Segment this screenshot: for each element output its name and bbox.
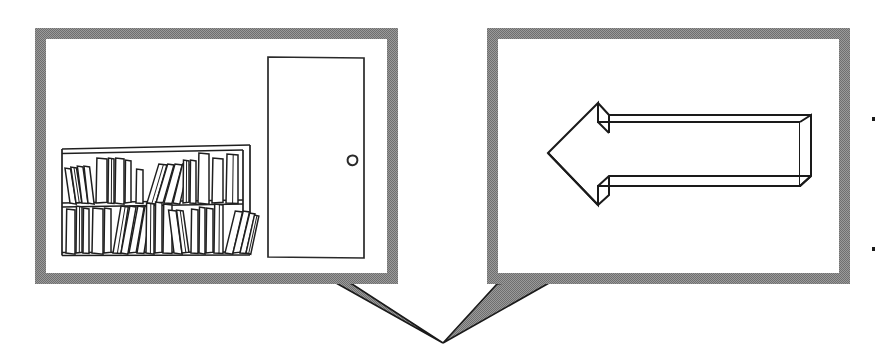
book	[104, 208, 111, 253]
book	[83, 208, 89, 253]
panel-right-tail	[443, 274, 565, 343]
book	[115, 158, 124, 204]
book	[226, 154, 238, 203]
book	[92, 208, 103, 254]
book	[206, 208, 213, 253]
book	[66, 209, 75, 254]
illustration-canvas: room-with-bookshelf-and-door left-pointi…	[0, 0, 878, 346]
book	[212, 158, 223, 203]
book	[190, 160, 196, 203]
panel-left-tail	[320, 274, 443, 343]
edge-speck-top	[872, 117, 875, 121]
panel-left	[35, 28, 443, 343]
book	[125, 160, 131, 203]
edge-marks	[872, 117, 875, 251]
door	[268, 57, 364, 258]
edge-speck-bottom	[872, 247, 875, 251]
book	[96, 158, 107, 203]
book	[155, 202, 162, 253]
book-spine-line	[233, 155, 234, 203]
book	[191, 209, 198, 253]
book	[198, 153, 209, 204]
book	[136, 169, 143, 203]
panel-right	[443, 28, 850, 343]
comic-illustration	[0, 0, 878, 346]
book	[214, 204, 223, 253]
book	[199, 207, 205, 254]
